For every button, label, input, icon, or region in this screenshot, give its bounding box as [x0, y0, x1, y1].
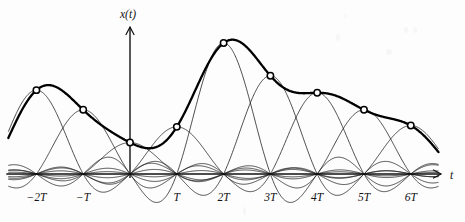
- sinc-basis-curve: [8, 126, 438, 185]
- sample-point-marker: [361, 107, 367, 113]
- sample-point-marker: [314, 90, 320, 96]
- x-axis-label: t: [450, 169, 454, 181]
- sinc-basis-curve: [8, 43, 438, 202]
- sinc-interpolation-figure: x(t) t −2T−TT2T3T4T5T6T: [0, 0, 465, 222]
- x-tick-label: T: [174, 191, 182, 203]
- y-axis-label: x(t): [119, 8, 136, 21]
- x-tick-label: −2T: [26, 191, 48, 203]
- sinc-basis-function-layer: [8, 43, 438, 202]
- sample-point-marker: [174, 124, 180, 130]
- reconstructed-signal-curve: [8, 40, 438, 152]
- sample-point-marker: [80, 107, 86, 113]
- tick-label-layer: −2T−TT2T3T4T5T6T: [26, 191, 418, 203]
- reconstructed-signal-layer: [8, 40, 438, 152]
- sample-point-marker: [267, 73, 273, 79]
- x-tick-label: −T: [76, 191, 92, 203]
- x-tick-label: 2T: [218, 191, 232, 203]
- x-tick-label: 4T: [311, 191, 325, 203]
- sample-marker-layer: [33, 40, 414, 146]
- x-tick-label: 6T: [405, 191, 419, 203]
- plot-canvas: x(t) t −2T−TT2T3T4T5T6T: [0, 0, 465, 222]
- sample-point-marker: [33, 87, 39, 93]
- sample-point-marker: [220, 40, 226, 46]
- x-tick-label: 3T: [263, 191, 278, 203]
- sample-point-marker: [408, 122, 414, 128]
- axes-layer: [6, 27, 441, 178]
- sample-point-marker: [127, 139, 133, 145]
- sinc-basis-curve: [8, 93, 438, 192]
- x-tick-label: 5T: [358, 191, 372, 203]
